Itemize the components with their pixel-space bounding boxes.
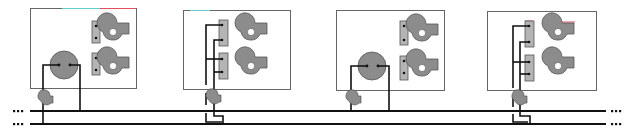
wiring-diagram	[0, 0, 631, 138]
panel-2	[184, 11, 291, 126]
terminal-strip	[525, 21, 534, 47]
small-fan-icon	[38, 90, 53, 105]
terminal-strip	[219, 20, 228, 46]
terminal-strip	[219, 53, 228, 79]
small-fan-icon	[512, 90, 527, 105]
panel-4	[488, 12, 597, 126]
continuation-dots-right	[611, 110, 621, 125]
panel-1	[31, 9, 137, 126]
panel-3	[337, 11, 445, 112]
small-fan-icon	[206, 89, 221, 104]
continuation-dots-left	[13, 110, 23, 125]
terminal-strip	[525, 55, 534, 81]
small-fan-icon	[346, 90, 361, 105]
